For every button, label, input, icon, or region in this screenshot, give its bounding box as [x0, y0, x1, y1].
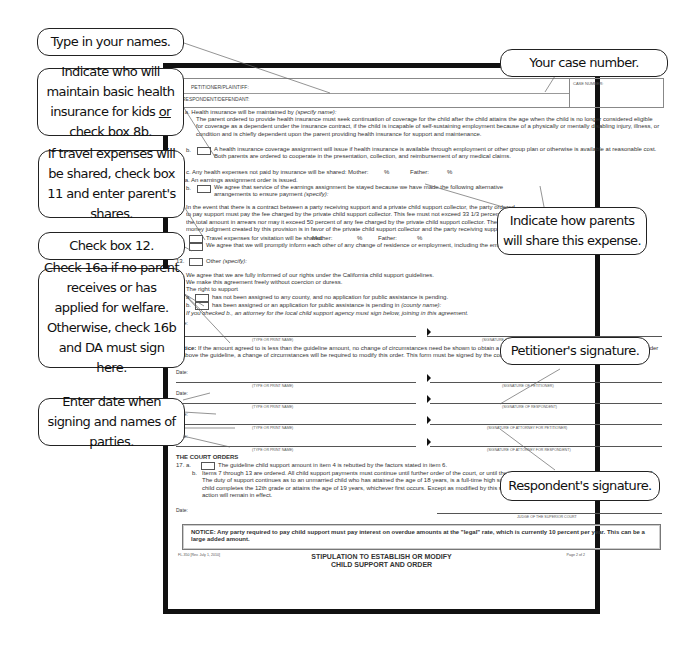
checkbox-11[interactable]: [189, 235, 203, 243]
item-13-label: Other: [206, 258, 221, 264]
item-16b-body: has been assigned or an application for …: [212, 302, 399, 308]
interest-notice-text: NOTICE: Any party required to pay child …: [191, 529, 651, 544]
signature-arrow-icon: [427, 438, 431, 446]
item-9b-number: b.: [186, 185, 191, 192]
checkbox-9b[interactable]: [197, 185, 211, 193]
petitioner-signature-caption: (SIGNATURE OF PETITIONER): [502, 384, 554, 388]
callout-health-or: or: [159, 104, 171, 119]
item-8c-text: c. Any health expenses not paid by insur…: [186, 169, 368, 176]
item-16b-number: b.: [186, 302, 191, 309]
form-title-line2: CHILD SUPPORT AND ORDER: [172, 561, 591, 568]
item-16-note-text: If you checked b., an attorney for the l…: [186, 310, 469, 316]
signature-arrow-icon: [427, 395, 431, 403]
judge-date-label: Date:: [176, 507, 188, 514]
da-name-line[interactable]: [176, 336, 416, 337]
callout-box12: Check box 12.: [38, 232, 185, 260]
callout-date-signing: Enter date when signing and names of par…: [38, 398, 185, 446]
item-16b-hint: (county name):: [401, 302, 441, 308]
item-13-hint: (specify):: [223, 258, 247, 264]
item-16a-text: has not been assigned to any county, and…: [212, 294, 448, 301]
item-8b-number: b.: [186, 147, 191, 154]
name-caption: (TYPE OR PRINT NAME): [252, 384, 293, 388]
callout-health-insurance: Indicate who will maintain basic health …: [37, 68, 184, 136]
name-caption: (TYPE OR PRINT NAME): [252, 426, 293, 430]
callout-health-text: Indicate who will maintain basic health …: [42, 62, 179, 142]
petitioner-name-field[interactable]: [179, 93, 569, 94]
item-8a-body: The parent ordered to provide health ins…: [196, 116, 661, 138]
petitioner-name-line[interactable]: [176, 382, 416, 383]
checkbox-12[interactable]: [189, 243, 203, 251]
petitioner-label: PETITIONER/PLAINTIFF:: [191, 84, 249, 90]
item-8c-mother-pct[interactable]: %: [384, 169, 389, 176]
petitioner-signature-line[interactable]: [430, 382, 662, 383]
signature-arrow-icon: [427, 416, 431, 424]
item-9b-body: We agree that service of the earnings as…: [214, 184, 503, 197]
respondent-label: RESPONDENT/DEFENDANT:: [182, 96, 250, 102]
callout-health-post: check box 8b.: [69, 124, 152, 139]
callout-case-number: Your case number.: [500, 49, 668, 77]
signature-arrow-icon: [427, 328, 431, 336]
checkbox-17a[interactable]: [201, 462, 215, 470]
callout-names: Type in your names.: [37, 28, 184, 56]
page-number: Page 2 of 2: [567, 553, 585, 557]
callout-welfare: Check 16a if no parent receives or has a…: [38, 268, 185, 368]
form-title-line1: STIPULATION TO ESTABLISH OR MODIFY: [172, 553, 591, 560]
checkbox-16a[interactable]: [195, 294, 209, 302]
item-9b-text: We agree that service of the earnings as…: [214, 184, 534, 199]
attorney-respondent-name-line[interactable]: [176, 446, 416, 447]
item-17a-number: 17. a.: [176, 462, 191, 469]
callout-respondent-signature: Respondent's signature.: [500, 471, 660, 501]
judge-signature-line: [437, 513, 662, 514]
item-17a-text: The guideline child support amount in it…: [218, 462, 447, 469]
respondent-name-line[interactable]: [176, 403, 416, 404]
item-8c-father-label: Father:: [410, 169, 429, 176]
item-16a-number: a.: [186, 294, 191, 301]
name-caption: (TYPE OR PRINT NAME): [252, 448, 293, 452]
item-16-text: 16. The right to support: [176, 286, 238, 293]
respondent-signature-line[interactable]: [430, 403, 662, 404]
party-names-area: PETITIONER/PLAINTIFF: RESPONDENT/DEFENDA…: [179, 79, 570, 107]
item-16b-text: has been assigned or an application for …: [212, 302, 441, 309]
signature-arrow-icon: [427, 374, 431, 382]
item-8a-hint: (specify name):: [295, 109, 336, 115]
callout-petitioner-signature: Petitioner's signature.: [500, 337, 650, 365]
respondent-signature-caption: (SIGNATURE OF RESPONDENT): [502, 405, 557, 409]
callout-share-expense: Indicate how parents will share this exp…: [497, 207, 647, 255]
checkbox-8b[interactable]: [197, 147, 211, 155]
interest-notice-box: NOTICE: Any party required to pay child …: [182, 524, 661, 550]
item-13-text: Other (specify):: [206, 258, 247, 265]
item-10-text: In the event that there is a contract be…: [186, 204, 516, 234]
da-name-caption: (TYPE OR PRINT NAME): [252, 338, 293, 342]
checkbox-13[interactable]: [189, 258, 203, 266]
caption-box: PETITIONER/PLAINTIFF: RESPONDENT/DEFENDA…: [178, 78, 664, 108]
callout-health-pre: Indicate who will maintain basic health …: [47, 64, 175, 119]
item-17b-number: b.: [192, 470, 197, 477]
attorney-petitioner-name-line[interactable]: [176, 424, 416, 425]
court-orders-title: THE COURT ORDERS: [176, 454, 238, 461]
case-number-label: CASE NUMBER:: [573, 81, 603, 86]
item-16-note: If you checked b., an attorney for the l…: [186, 310, 469, 317]
checkbox-16b[interactable]: [195, 302, 209, 310]
item-8a-text: Health insurance will be maintained by: [191, 109, 293, 115]
attorney-respondent-signature-caption: (SIGNATURE OF ATTORNEY FOR RESPONDENT): [487, 448, 571, 452]
callout-travel: If travel expenses will be shared, check…: [38, 150, 185, 218]
attorney-respondent-signature-line[interactable]: [430, 446, 662, 447]
attorney-petitioner-signature-caption: (SIGNATURE OF ATTORNEY FOR PETITIONER): [487, 426, 567, 430]
item-9b-hint: (specify):: [304, 191, 328, 197]
item-8c-father-pct[interactable]: %: [447, 169, 452, 176]
item-8b-text: A health insurance coverage assignment w…: [214, 146, 661, 161]
name-caption: (TYPE OR PRINT NAME): [252, 405, 293, 409]
attorney-petitioner-signature-line[interactable]: [430, 424, 662, 425]
judge-caption: JUDGE OF THE SUPERIOR COURT: [517, 515, 577, 519]
